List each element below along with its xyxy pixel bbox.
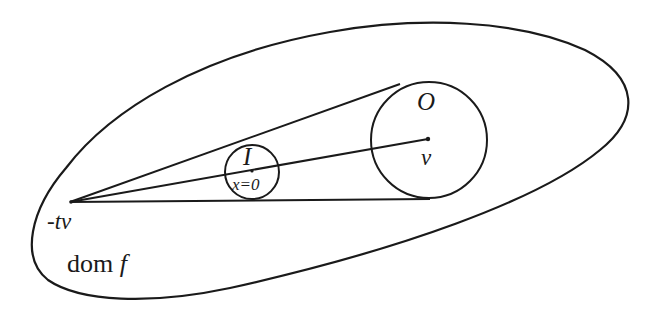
label-I: I [243,144,251,169]
label-domain-f: f [120,249,127,278]
label-domain-dom: dom [67,249,113,278]
point-apex [69,200,73,204]
label-O: O [417,89,435,114]
label-apex: -tv [47,210,71,233]
label-x0: x=0 [232,176,260,193]
label-domain: dom f [67,251,127,277]
label-v: v [421,146,431,169]
point-v [426,137,430,141]
